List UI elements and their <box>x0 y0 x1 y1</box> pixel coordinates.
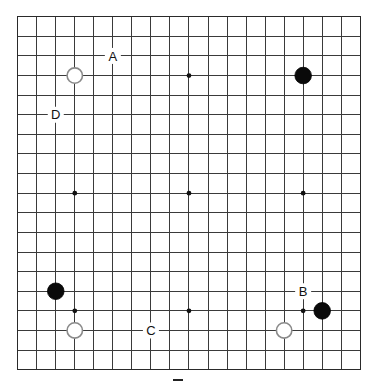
star-point-icon <box>187 191 192 196</box>
cropped-caption-glyph <box>173 379 183 381</box>
star-point-icon <box>72 308 77 313</box>
star-point-icon <box>72 191 77 196</box>
board-label-a: A <box>105 48 121 64</box>
black-stone-icon <box>47 283 64 300</box>
star-point-icon <box>187 73 192 78</box>
board-label-d: D <box>48 107 64 123</box>
figure-caption <box>0 376 373 383</box>
label-text: A <box>109 49 118 64</box>
go-board-diagram: ADBC <box>0 0 373 383</box>
go-board: ADBC <box>0 0 373 383</box>
board-label-c: C <box>143 322 159 338</box>
black-stone-icon <box>314 303 331 320</box>
white-stone-icon <box>67 68 82 83</box>
white-stone-icon <box>276 323 291 338</box>
black-stone-icon <box>295 67 312 84</box>
label-text: D <box>51 107 60 122</box>
star-point-icon <box>187 308 192 313</box>
star-point-icon <box>301 308 306 313</box>
board-label-b: B <box>295 283 311 299</box>
star-point-icon <box>301 191 306 196</box>
white-stone-icon <box>67 323 82 338</box>
label-text: B <box>299 284 308 299</box>
label-text: C <box>146 323 155 338</box>
